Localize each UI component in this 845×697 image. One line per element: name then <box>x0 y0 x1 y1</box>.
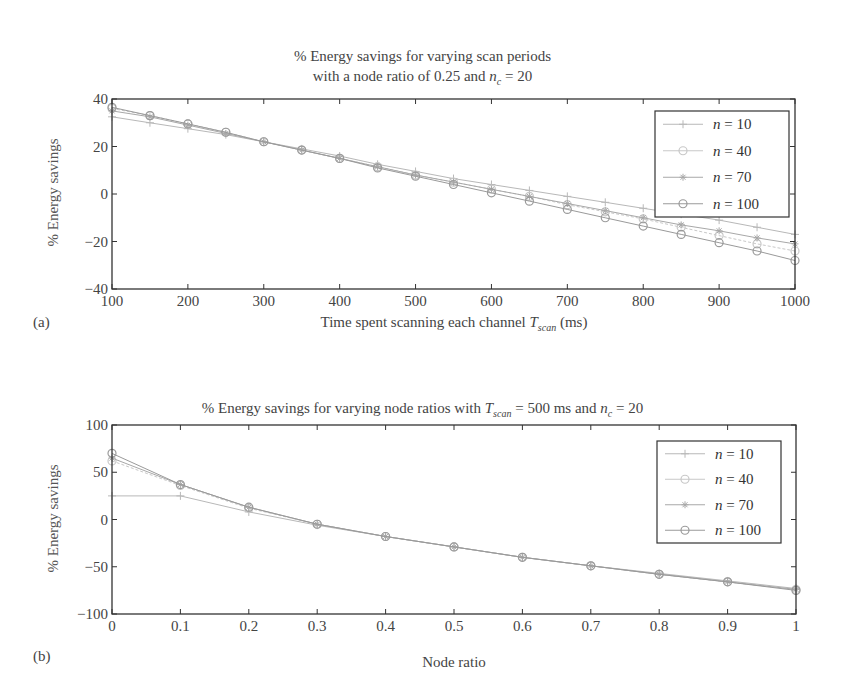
chart-b-plot: 00.10.20.30.40.50.60.70.80.91−100−500501… <box>0 0 845 697</box>
chart-b-xlabel: Node ratio <box>112 654 796 671</box>
x-tick-label: 0.2 <box>239 618 258 634</box>
x-tick-label: 0.1 <box>171 618 190 634</box>
y-tick-label: −100 <box>77 606 108 622</box>
legend: n = 10n = 40n = 70n = 100 <box>657 441 781 543</box>
legend-item: n = 10 <box>715 446 753 462</box>
legend-item: n = 70 <box>715 497 753 513</box>
x-tick-label: 0.5 <box>445 618 464 634</box>
x-tick-label: 0.8 <box>650 618 669 634</box>
y-tick-label: −50 <box>85 559 108 575</box>
chart-b-panel-label: (b) <box>33 648 51 665</box>
x-tick-label: 0.7 <box>581 618 600 634</box>
x-tick-label: 0.3 <box>308 618 327 634</box>
x-tick-label: 0.6 <box>513 618 532 634</box>
legend-item: n = 40 <box>715 471 753 487</box>
y-tick-label: 0 <box>101 512 109 528</box>
legend-item: n = 100 <box>715 522 761 538</box>
x-tick-label: 0.9 <box>718 618 737 634</box>
y-tick-label: 100 <box>86 417 109 433</box>
y-tick-label: 50 <box>93 464 108 480</box>
x-tick-label: 1 <box>792 618 800 634</box>
x-tick-label: 0 <box>108 618 116 634</box>
x-tick-label: 0.4 <box>376 618 395 634</box>
